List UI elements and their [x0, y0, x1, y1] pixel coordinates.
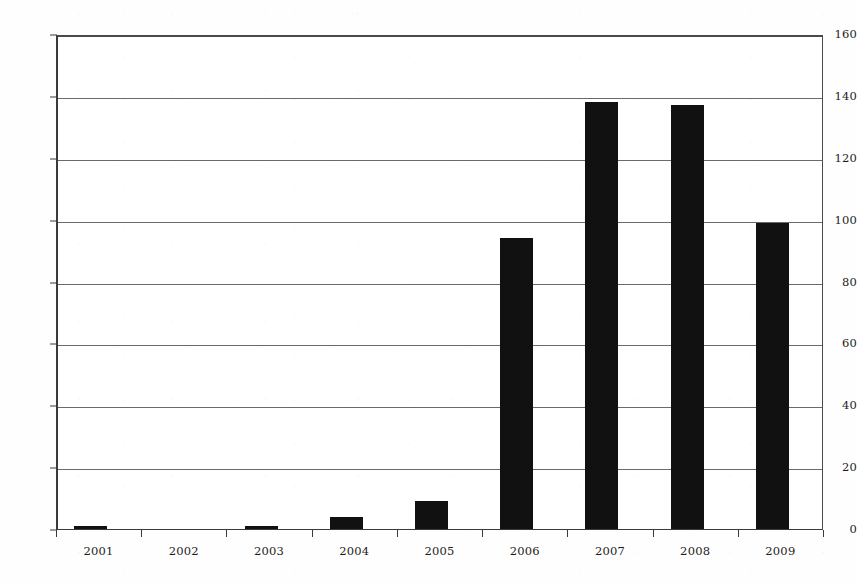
- bar-2004: [330, 517, 363, 529]
- x-tick-label-2002: 2002: [141, 546, 226, 558]
- bar-2007: [585, 102, 618, 529]
- x-tick-label-2005: 2005: [397, 546, 482, 558]
- bar-2005: [415, 501, 448, 529]
- x-tick-mark: [482, 530, 483, 537]
- x-tick-mark: [312, 530, 313, 537]
- bars-layer: [58, 36, 822, 529]
- bar-2001: [74, 526, 107, 529]
- bar-chart-figure: 160140120100806040200 200120022003200420…: [0, 0, 857, 585]
- x-tick-label-2009: 2009: [738, 546, 823, 558]
- bar-2006: [500, 238, 533, 529]
- bar-2009: [756, 223, 789, 529]
- x-tick-label-2007: 2007: [567, 546, 652, 558]
- x-tick-mark: [141, 530, 142, 537]
- x-tick-mark: [653, 530, 654, 537]
- x-tick-mark: [56, 530, 57, 537]
- bar-2008: [671, 105, 704, 529]
- bar-2003: [245, 526, 278, 529]
- x-tick-mark: [397, 530, 398, 537]
- x-tick-label-2008: 2008: [653, 546, 738, 558]
- x-tick-mark: [226, 530, 227, 537]
- plot-area: [56, 35, 823, 530]
- x-tick-mark: [823, 530, 824, 537]
- x-tick-label-2004: 2004: [312, 546, 397, 558]
- x-tick-mark: [567, 530, 568, 537]
- x-tick-label-2006: 2006: [482, 546, 567, 558]
- x-tick-label-2001: 2001: [56, 546, 141, 558]
- x-tick-mark: [738, 530, 739, 537]
- x-tick-label-2003: 2003: [226, 546, 311, 558]
